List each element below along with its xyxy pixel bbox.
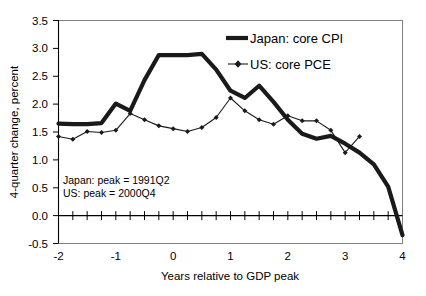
- x-axis-title: Years relative to GDP peak: [161, 270, 299, 282]
- y-tick-label: 2.0: [32, 98, 48, 110]
- x-tick-label: 1: [227, 250, 233, 262]
- x-tick-label: 2: [285, 250, 291, 262]
- x-tick-label: 0: [170, 250, 176, 262]
- y-axis-title: 4-quarter change, percent: [8, 65, 20, 198]
- y-tick-label: -0.5: [28, 238, 48, 250]
- annotation-us-peak: US: peak = 2000Q4: [63, 187, 156, 199]
- chart-background: [0, 0, 426, 296]
- annotation-japan-peak: Japan: peak = 1991Q2: [63, 174, 170, 186]
- y-tick-label: 3.5: [32, 15, 48, 27]
- x-tick-label: 4: [399, 250, 406, 262]
- y-tick-label: 1.5: [32, 126, 48, 138]
- x-tick-label: 3: [342, 250, 348, 262]
- chart-figure: 3.5 3.0 2.5 2.0 1.5 1.0 0.5 0.0 -0.5 -2 …: [0, 0, 426, 296]
- y-tick-label: 1.0: [32, 154, 48, 166]
- legend-label-us: US: core PCE: [250, 57, 331, 72]
- y-tick-label: 3.0: [32, 42, 48, 54]
- y-tick-label: 2.5: [32, 70, 48, 82]
- y-tick-label: 0.0: [32, 210, 48, 222]
- y-tick-label: 0.5: [32, 182, 48, 194]
- chart-annotations: Japan: peak = 1991Q2 US: peak = 2000Q4: [63, 174, 170, 199]
- x-tick-label: -1: [111, 250, 121, 262]
- y-axis-tick-labels: 3.5 3.0 2.5 2.0 1.5 1.0 0.5 0.0 -0.5: [28, 15, 48, 250]
- line-chart: 3.5 3.0 2.5 2.0 1.5 1.0 0.5 0.0 -0.5 -2 …: [0, 0, 426, 296]
- x-tick-label: -2: [53, 250, 63, 262]
- legend-label-japan: Japan: core CPI: [250, 31, 343, 46]
